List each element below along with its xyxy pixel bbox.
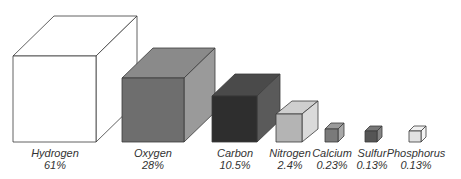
cube-carbon <box>212 74 280 142</box>
label-phosphorus: Phosphorus 0.13% <box>387 147 446 171</box>
cube-phosphorus <box>409 126 426 142</box>
label-calcium: Calcium 0.23% <box>312 147 352 171</box>
element-percent: 2.4% <box>269 159 311 171</box>
cube-front-face <box>212 96 257 142</box>
cube-front-face <box>365 131 377 142</box>
label-carbon: Carbon 10.5% <box>217 147 253 171</box>
element-percent: 0.13% <box>387 159 446 171</box>
cube-calcium <box>325 123 344 142</box>
element-name: Phosphorus <box>387 147 446 159</box>
element-name: Oxygen <box>134 147 172 159</box>
cube-nitrogen <box>276 101 318 142</box>
element-percent: 61% <box>31 159 79 171</box>
cube-front-face <box>122 78 184 142</box>
element-percent: 0.23% <box>312 159 352 171</box>
label-oxygen: Oxygen 28% <box>134 147 172 171</box>
element-percent: 0.13% <box>356 159 387 171</box>
cube-hydrogen <box>13 16 137 142</box>
element-percent: 28% <box>134 159 172 171</box>
element-name: Sulfur <box>356 147 387 159</box>
cube-front-face <box>276 114 302 142</box>
element-abundance-diagram: Hydrogen 61% Oxygen 28% Carbon 10.5% Nit… <box>0 0 461 179</box>
cube-front-face <box>409 131 421 142</box>
cube-sulfur <box>365 126 382 142</box>
label-sulfur: Sulfur 0.13% <box>356 147 387 171</box>
cube-front-face <box>13 56 96 142</box>
element-name: Carbon <box>217 147 253 159</box>
element-percent: 10.5% <box>217 159 253 171</box>
label-hydrogen: Hydrogen 61% <box>31 147 79 171</box>
label-nitrogen: Nitrogen 2.4% <box>269 147 311 171</box>
element-name: Hydrogen <box>31 147 79 159</box>
element-name: Nitrogen <box>269 147 311 159</box>
element-name: Calcium <box>312 147 352 159</box>
cube-front-face <box>325 129 338 142</box>
